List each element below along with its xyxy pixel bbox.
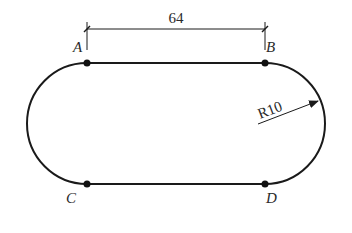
radius-annotation: R10 <box>255 98 318 124</box>
radius-label: R10 <box>255 98 284 122</box>
point-b <box>262 60 269 67</box>
label-a: A <box>72 39 83 55</box>
dimension-label: 64 <box>169 10 185 26</box>
label-c: C <box>66 190 77 206</box>
dimension-64: 64 <box>84 10 268 50</box>
point-a <box>84 60 91 67</box>
label-d: D <box>265 190 277 206</box>
label-b: B <box>266 39 275 55</box>
point-c <box>84 181 91 188</box>
diagram-canvas: 64 A B C D R10 <box>0 0 352 233</box>
track-outline <box>27 63 325 184</box>
point-d <box>262 181 269 188</box>
